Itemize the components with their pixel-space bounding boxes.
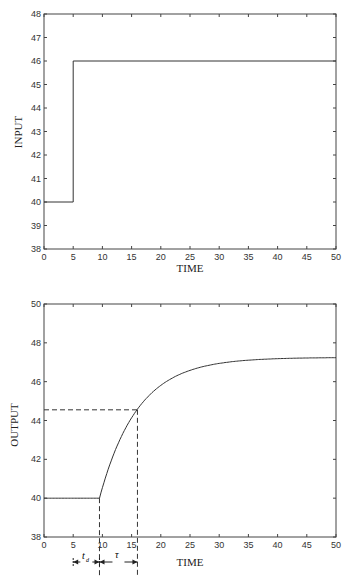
y-tick-label: 40 xyxy=(31,197,41,207)
y-tick-label: 42 xyxy=(31,150,41,160)
tau-label: τ xyxy=(115,549,119,560)
x-tick-label: 20 xyxy=(156,540,166,550)
figure: 0510152025303540455038394041424344454647… xyxy=(0,0,349,576)
output-plot-xlabel: TIME xyxy=(177,556,204,568)
svg-text:t: t xyxy=(82,550,85,561)
x-tick-label: 0 xyxy=(41,252,46,262)
input-plot-ylabel: INPUT xyxy=(12,116,24,149)
y-tick-label: 44 xyxy=(31,103,41,113)
x-tick-label: 30 xyxy=(214,540,224,550)
x-tick-label: 10 xyxy=(97,540,107,550)
x-tick-label: 25 xyxy=(185,252,195,262)
x-tick-label: 35 xyxy=(243,540,253,550)
y-tick-label: 45 xyxy=(31,80,41,90)
y-tick-label: 39 xyxy=(31,221,41,231)
y-tick-label: 48 xyxy=(31,338,41,348)
y-tick-label: 41 xyxy=(31,174,41,184)
x-tick-label: 20 xyxy=(156,252,166,262)
plot-frame xyxy=(44,14,336,249)
y-tick-label: 43 xyxy=(31,127,41,137)
y-tick-label: 47 xyxy=(31,33,41,43)
x-tick-label: 5 xyxy=(71,252,76,262)
x-tick-label: 45 xyxy=(302,540,312,550)
x-tick-label: 5 xyxy=(71,540,76,550)
y-tick-label: 48 xyxy=(31,9,41,19)
output-plot-ylabel: OUTPUT xyxy=(8,403,20,447)
y-tick-label: 50 xyxy=(31,299,41,309)
input-plot: 0510152025303540455038394041424344454647… xyxy=(31,9,341,262)
y-tick-label: 44 xyxy=(31,416,41,426)
y-tick-label: 40 xyxy=(31,493,41,503)
output-plot: 0510152025303540455038404244464850 xyxy=(31,299,341,576)
x-tick-label: 15 xyxy=(127,252,137,262)
x-tick-label: 35 xyxy=(243,252,253,262)
x-tick-label: 45 xyxy=(302,252,312,262)
x-tick-label: 30 xyxy=(214,252,224,262)
x-tick-label: 15 xyxy=(127,540,137,550)
x-tick-label: 40 xyxy=(273,252,283,262)
data-line xyxy=(44,61,336,202)
x-tick-label: 50 xyxy=(331,252,341,262)
x-tick-label: 40 xyxy=(273,540,283,550)
data-line xyxy=(44,358,336,499)
x-tick-label: 25 xyxy=(185,540,195,550)
input-plot-xlabel: TIME xyxy=(177,262,204,274)
y-tick-label: 46 xyxy=(31,377,41,387)
y-tick-label: 46 xyxy=(31,56,41,66)
x-tick-label: 10 xyxy=(97,252,107,262)
y-tick-label: 42 xyxy=(31,454,41,464)
y-tick-label: 38 xyxy=(31,532,41,542)
y-tick-label: 38 xyxy=(31,244,41,254)
plot-frame xyxy=(44,304,336,537)
x-tick-label: 0 xyxy=(41,540,46,550)
x-tick-label: 50 xyxy=(331,540,341,550)
